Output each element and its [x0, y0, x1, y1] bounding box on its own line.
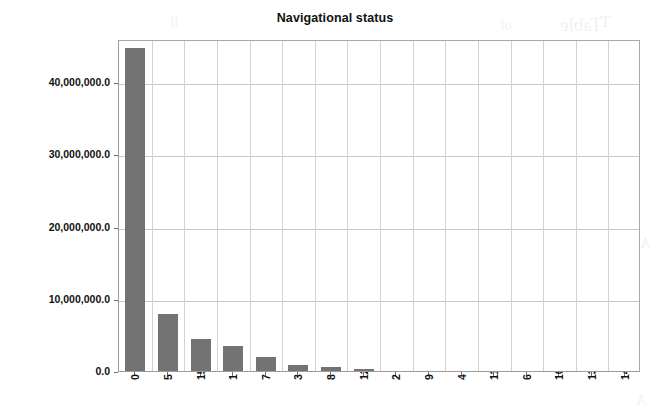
x-axis-tick-label: 9 [423, 374, 435, 380]
y-axis-tick-mark [114, 372, 118, 373]
bars-layer [119, 41, 639, 371]
chart-title: Navigational status [0, 11, 670, 25]
y-axis-tick-label: 20,000,000.0 [49, 221, 110, 233]
bar [158, 314, 178, 371]
bar-chart: Navigational status 0.010,000,000.020,00… [0, 0, 670, 416]
x-axis-tick-label: 3 [292, 374, 304, 380]
x-axis-tick-label: 1 [227, 374, 239, 380]
y-axis-tick-label: 10,000,000.0 [49, 293, 110, 305]
y-axis-tick-label: 30,000,000.0 [49, 148, 110, 160]
x-axis-tick-label: 8 [325, 374, 337, 380]
bar [354, 369, 374, 371]
y-axis-tick-label: 40,000,000.0 [49, 76, 110, 88]
x-axis-tick-label: 5 [162, 374, 174, 380]
x-axis-tick-label: 4 [456, 374, 468, 380]
x-axis-tick-label: 6 [521, 374, 533, 380]
plot-area [118, 40, 640, 372]
x-axis-tick-label: 7 [260, 374, 272, 380]
bar [288, 365, 308, 371]
y-axis-tick-label: 0.0 [95, 365, 110, 377]
bar [256, 357, 276, 371]
x-axis-tick-label: 0 [129, 374, 141, 380]
bar [191, 339, 211, 371]
x-axis-tick-label: 2 [390, 374, 402, 380]
bar [125, 48, 145, 371]
bar [223, 346, 243, 371]
bar [321, 367, 341, 371]
